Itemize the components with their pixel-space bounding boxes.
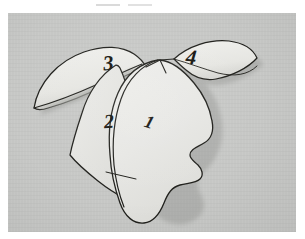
scan-artifact-streak-left: [96, 4, 120, 6]
paper-cutout-scene: 3 4 2 1: [8, 13, 296, 232]
piece-label-4: 4: [185, 47, 198, 69]
piece-label-2: 2: [103, 111, 114, 131]
photograph-plate: 3 4 2 1: [8, 13, 296, 232]
screenshot-root: 3 4 2 1: [0, 0, 305, 239]
piece-label-3: 3: [102, 53, 115, 75]
scan-artifact-streak-right: [128, 4, 152, 6]
